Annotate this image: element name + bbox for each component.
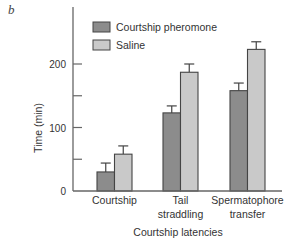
legend-label: Saline bbox=[116, 39, 145, 51]
x-category-label: Courtship bbox=[92, 194, 137, 206]
bar bbox=[115, 154, 133, 191]
bar bbox=[97, 172, 115, 191]
bar bbox=[248, 49, 266, 191]
bar-chart: 0100200 Courtship pheromoneSaline Courts… bbox=[0, 0, 294, 246]
bar bbox=[181, 72, 199, 191]
legend-label: Courtship pheromone bbox=[116, 21, 217, 33]
legend-swatch bbox=[93, 40, 110, 50]
x-category-label: Spermatophore bbox=[211, 194, 284, 206]
bar bbox=[230, 91, 248, 191]
x-category-label: straddling bbox=[158, 208, 204, 220]
y-tick-label: 200 bbox=[49, 59, 66, 70]
y-tick-label: 0 bbox=[60, 186, 66, 197]
legend-swatch bbox=[93, 22, 110, 32]
x-category-label: Tail bbox=[173, 194, 189, 206]
x-category-label: transfer bbox=[230, 208, 266, 220]
bar bbox=[163, 113, 181, 191]
y-axis-title: Time (min) bbox=[32, 103, 44, 153]
x-axis-title: Courtship latencies bbox=[133, 226, 222, 238]
bars-group bbox=[97, 42, 265, 191]
legend: Courtship pheromoneSaline bbox=[93, 21, 217, 51]
y-tick-label: 100 bbox=[49, 123, 66, 134]
